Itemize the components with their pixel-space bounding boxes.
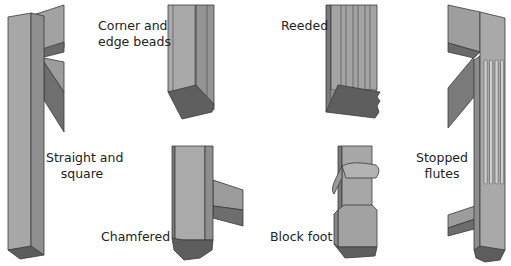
label-line: square bbox=[46, 166, 118, 182]
stopped-flutes-leg bbox=[448, 5, 505, 262]
label-line: flutes bbox=[414, 166, 470, 182]
label-line: Reeded bbox=[281, 18, 328, 34]
label-chamfered: Chamfered bbox=[101, 229, 170, 245]
block-foot-leg bbox=[332, 146, 379, 258]
reeded-leg bbox=[326, 5, 380, 118]
label-line: Stopped bbox=[414, 150, 470, 166]
label-line: Straight and bbox=[46, 150, 118, 166]
label-line: Block foot bbox=[270, 229, 332, 245]
label-line: Corner and bbox=[98, 18, 162, 34]
straight-square-leg bbox=[8, 5, 64, 259]
label-stopped-flutes: Stopped flutes bbox=[414, 150, 470, 182]
chamfered-leg bbox=[172, 146, 243, 260]
label-reeded: Reeded bbox=[281, 18, 328, 34]
leg-styles-illustration bbox=[0, 0, 511, 266]
corner-edge-beads-leg bbox=[168, 5, 214, 119]
label-straight-square: Straight and square bbox=[46, 150, 118, 182]
label-line: edge beads bbox=[98, 34, 162, 50]
label-line: Chamfered bbox=[101, 229, 170, 245]
label-corner-edge-beads: Corner and edge beads bbox=[98, 18, 162, 50]
label-block-foot: Block foot bbox=[270, 229, 332, 245]
